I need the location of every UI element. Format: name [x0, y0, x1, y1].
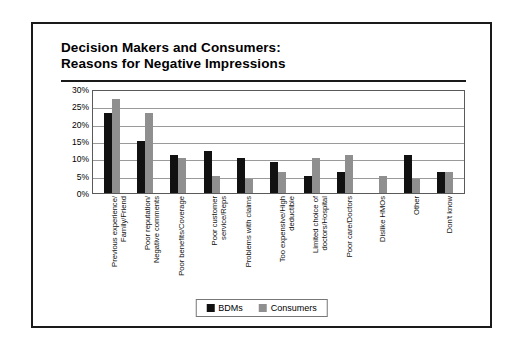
y-axis-tick: 25% [72, 102, 89, 112]
bar-group [128, 91, 161, 193]
y-axis-tick: 5% [77, 172, 89, 182]
bar-group [295, 91, 328, 193]
bar-consumers [345, 155, 353, 193]
x-axis-label: Poor care/Doctors [346, 196, 355, 257]
chart-title-line-2: Reasons for Negative Impressions [61, 56, 461, 72]
x-axis-label-slot: Poor customerservice/Reps [195, 196, 229, 304]
bar-group [395, 91, 428, 193]
legend-item: BDMs [206, 303, 243, 313]
bar-group [362, 91, 395, 193]
y-axis: 30%25%20%15%10%5%0% [63, 84, 89, 200]
legend-swatch-icon [259, 304, 267, 312]
y-axis-tick: 20% [72, 120, 89, 130]
x-axis-label-slot: Other [396, 196, 430, 304]
y-axis-tick: 10% [72, 154, 89, 164]
x-axis-label-slot: Don't know [429, 196, 463, 304]
bar-group [195, 91, 228, 193]
bar-group [429, 91, 462, 193]
x-axis-label-slot: Problems with claims [228, 196, 262, 304]
x-axis-label: Previous experience/Family/Friend [111, 196, 128, 267]
x-axis-label: Poor reputation/Negative comments [144, 196, 161, 263]
chart-figure: Decision Makers and Consumers: Reasons f… [31, 22, 492, 328]
bar-consumers [245, 179, 253, 193]
bar-group [262, 91, 295, 193]
legend-item: Consumers [259, 303, 317, 313]
x-axis-label: Don't know [446, 196, 455, 233]
bar-bdms [237, 158, 245, 193]
chart-legend: BDMsConsumers [195, 299, 328, 317]
plot-area [92, 90, 465, 194]
bar-bdms [270, 162, 278, 193]
bar-consumers [178, 158, 186, 193]
bar-consumers [445, 172, 453, 193]
bar-consumers [278, 172, 286, 193]
bar-bdms [204, 151, 212, 193]
legend-label: BDMs [218, 303, 243, 313]
x-axis-label: Limited choice ofdoctors/Hospital [312, 196, 329, 253]
chart-title-line-1: Decision Makers and Consumers: [61, 40, 461, 56]
bar-consumers [379, 176, 387, 193]
x-axis-label-slot: Dislike HMOs [362, 196, 396, 304]
bar-groups [93, 91, 464, 193]
y-axis-tick: 15% [72, 137, 89, 147]
x-axis-label: Too expensive/Highdeductible [279, 196, 296, 262]
x-axis-label-slot: Poor reputation/Negative comments [128, 196, 162, 304]
bar-consumers [312, 158, 320, 193]
bar-group [228, 91, 261, 193]
bar-consumers [145, 113, 153, 193]
chart-title: Decision Makers and Consumers: Reasons f… [61, 40, 461, 72]
x-axis-label: Poor customerservice/Reps [211, 196, 228, 245]
y-axis-tick: 0% [77, 189, 89, 199]
x-axis-label-slot: Limited choice ofdoctors/Hospital [295, 196, 329, 304]
bar-bdms [404, 155, 412, 193]
legend-swatch-icon [206, 304, 214, 312]
x-axis-label: Other [413, 196, 422, 215]
title-divider [61, 80, 466, 82]
x-axis-label: Poor benefits/Coverage [178, 196, 187, 276]
bar-bdms [304, 176, 312, 193]
bar-consumers [112, 99, 120, 193]
x-axis-labels: Previous experience/Family/FriendPoor re… [92, 196, 465, 304]
bar-consumers [412, 179, 420, 193]
bar-bdms [170, 155, 178, 193]
legend-label: Consumers [271, 303, 317, 313]
y-axis-tick: 30% [72, 85, 89, 95]
x-axis-label-slot: Previous experience/Family/Friend [94, 196, 128, 304]
x-axis-label-slot: Too expensive/Highdeductible [262, 196, 296, 304]
bar-consumers [212, 176, 220, 193]
x-axis-label: Problems with claims [245, 196, 254, 267]
bar-bdms [104, 113, 112, 193]
bar-group [162, 91, 195, 193]
x-axis-label-slot: Poor benefits/Coverage [161, 196, 195, 304]
bar-bdms [437, 172, 445, 193]
bar-group [95, 91, 128, 193]
x-axis-label: Dislike HMOs [379, 196, 388, 242]
x-axis-label-slot: Poor care/Doctors [329, 196, 363, 304]
bar-bdms [337, 172, 345, 193]
bar-group [329, 91, 362, 193]
bar-bdms [137, 141, 145, 193]
